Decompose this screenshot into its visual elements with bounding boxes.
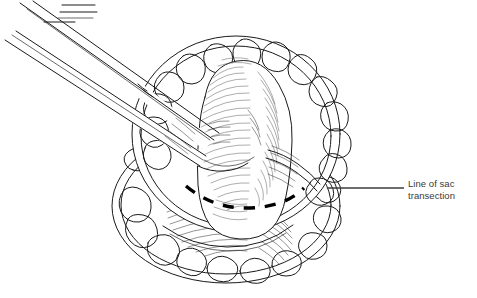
illustration-canvas xyxy=(0,0,477,298)
line-of-sac-transection-label: Line of sac transection xyxy=(408,178,476,201)
surgical-illustration-figure: Line of sac transection xyxy=(0,0,477,298)
